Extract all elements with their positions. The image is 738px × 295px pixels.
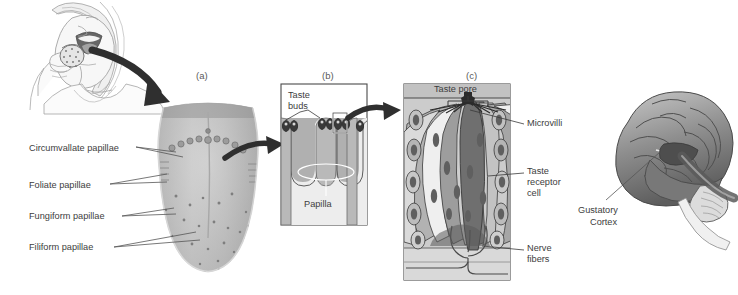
label-taste-buds-line2: buds bbox=[288, 101, 308, 112]
figure-canvas: (a) (b) (c) Circumvallate papillae Folia… bbox=[0, 0, 738, 295]
label-taste-buds-line1: Taste bbox=[288, 90, 310, 101]
panel-tag-c: (c) bbox=[466, 70, 477, 81]
label-nerve-fibers-line2: fibers bbox=[527, 254, 549, 265]
label-taste-receptor-cell-line2: receptor bbox=[527, 177, 561, 188]
brain-lateral-view bbox=[606, 92, 734, 250]
label-microvilli: Microvilli bbox=[527, 118, 562, 129]
label-taste-pore: Taste pore bbox=[434, 84, 477, 95]
label-gustatory-cortex-line2: Cortex bbox=[590, 217, 617, 228]
panel-tag-a: (a) bbox=[196, 70, 208, 81]
label-filiform-papillae: Filiform papillae bbox=[29, 242, 93, 253]
tongue-surface-photo bbox=[150, 100, 270, 280]
label-papilla: Papilla bbox=[304, 199, 332, 210]
label-nerve-fibers-line1: Nerve bbox=[527, 243, 552, 254]
taste-bud-detail bbox=[404, 84, 536, 280]
panel-tag-b: (b) bbox=[322, 70, 334, 81]
label-foliate-papillae: Foliate papillae bbox=[29, 180, 91, 191]
label-fungiform-papillae: Fungiform papillae bbox=[29, 211, 105, 222]
woman-eating-strawberry bbox=[30, 2, 164, 114]
label-taste-receptor-cell-line1: Taste bbox=[527, 166, 549, 177]
label-gustatory-cortex-line1: Gustatory bbox=[578, 205, 618, 216]
label-taste-receptor-cell-line3: cell bbox=[527, 188, 541, 199]
label-circumvallate-papillae: Circumvallate papillae bbox=[29, 143, 119, 154]
